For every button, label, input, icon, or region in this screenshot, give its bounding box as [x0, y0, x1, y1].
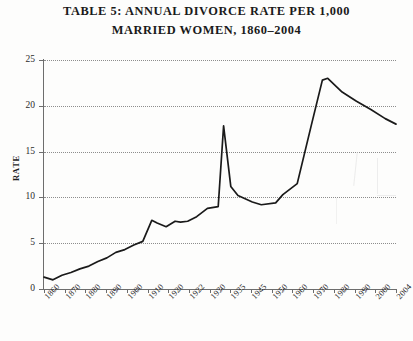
x-tick-label: 1960: [291, 282, 310, 301]
x-tick-minor: [386, 289, 387, 292]
scan-artifact-1: [353, 152, 358, 186]
gridline: [44, 152, 396, 153]
x-tick-label: 1990: [354, 282, 373, 301]
gridline: [44, 60, 396, 61]
chart-title-line-1: Table 5: Annual Divorce Rate per 1,000: [0, 2, 413, 21]
y-tick-mark: [39, 152, 44, 153]
x-tick-label: 1870: [64, 282, 83, 301]
gridline: [44, 106, 396, 107]
x-tick-minor: [96, 289, 97, 292]
y-tick-label: 10: [5, 192, 35, 201]
x-tick-label: 1920: [167, 282, 186, 301]
x-tick-label: 1980: [333, 282, 352, 301]
y-tick-label: 25: [5, 55, 35, 64]
x-tick-label: 1935: [229, 282, 248, 301]
x-tick-minor: [261, 289, 262, 292]
y-tick-label: 20: [5, 101, 35, 110]
x-tick-minor: [137, 289, 138, 292]
x-tick-minor: [179, 289, 180, 292]
x-tick-minor: [365, 289, 366, 292]
y-axis-line: [43, 59, 44, 290]
scan-artifact-3: [377, 195, 396, 196]
x-tick-label: 1930: [209, 282, 228, 301]
x-tick-minor: [282, 289, 283, 292]
y-tick-mark: [39, 243, 44, 244]
x-tick-minor: [199, 289, 200, 292]
y-tick-mark: [39, 197, 44, 198]
y-tick-label: 15: [5, 147, 35, 156]
x-tick-label: 1922: [188, 282, 207, 301]
x-tick-minor: [241, 289, 242, 292]
chart-title-line-2: Married Women, 1860–2004: [0, 21, 413, 40]
x-tick-label: 2004: [395, 282, 413, 301]
x-tick-label: 1880: [84, 282, 103, 301]
x-tick-label: 1890: [105, 282, 124, 301]
figure-container: Table 5: Annual Divorce Rate per 1,000 M…: [0, 0, 413, 341]
x-tick-label: 1900: [126, 282, 145, 301]
x-tick-label: 1910: [147, 282, 166, 301]
chart-title: Table 5: Annual Divorce Rate per 1,000 M…: [0, 2, 413, 40]
y-tick-mark: [39, 60, 44, 61]
x-tick-label: 1945: [250, 282, 269, 301]
x-tick-minor: [158, 289, 159, 292]
x-tick-label: 1970: [312, 282, 331, 301]
y-tick-mark: [39, 106, 44, 107]
x-tick-minor: [324, 289, 325, 292]
x-tick-minor: [303, 289, 304, 292]
x-tick-minor: [54, 289, 55, 292]
scan-artifact-2: [377, 158, 378, 194]
x-tick-label: 1950: [271, 282, 290, 301]
x-tick-label: 2000: [374, 282, 393, 301]
y-tick-label: 0: [5, 284, 35, 293]
x-tick-minor: [75, 289, 76, 292]
x-tick-minor: [116, 289, 117, 292]
gridline: [44, 243, 396, 244]
x-tick-label: 1860: [43, 282, 62, 301]
x-tick-minor: [220, 289, 221, 292]
scan-artifact-4: [336, 198, 337, 224]
gridline: [44, 197, 396, 198]
x-tick-minor: [344, 289, 345, 292]
y-tick-label: 5: [5, 238, 35, 247]
